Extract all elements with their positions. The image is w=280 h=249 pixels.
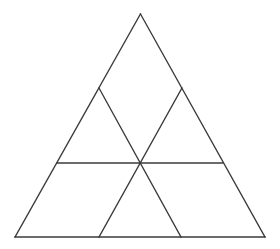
figure-canvas: [0, 0, 280, 249]
region-upper-right-triangle: [141, 88, 223, 163]
triangle-diagram: [0, 0, 280, 249]
region-top-triangle: [99, 14, 182, 88]
region-upper-left-triangle: [57, 88, 141, 163]
region-group: [15, 14, 265, 237]
